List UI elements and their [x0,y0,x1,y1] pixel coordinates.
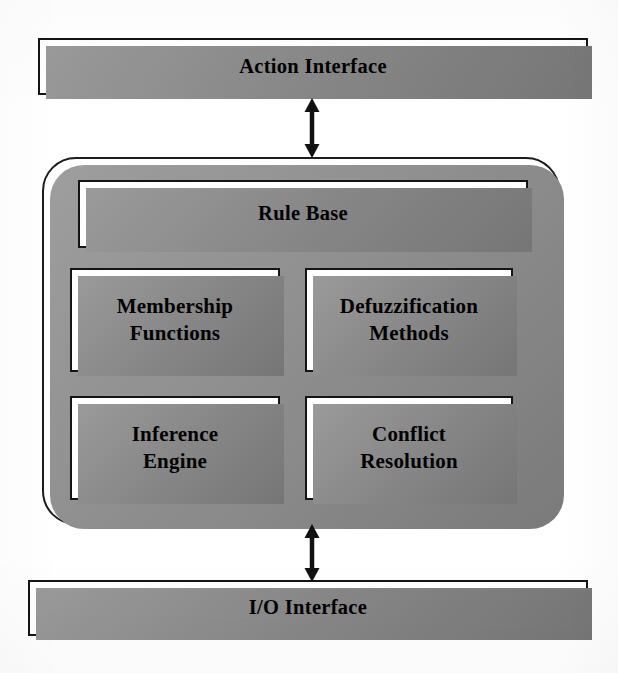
inference-engine-label-line2: Engine [143,449,207,473]
membership-functions-box: Membership Functions [70,268,280,372]
diagram-canvas: Action Interface Rule Base Membership Fu… [0,0,618,673]
defuzzification-methods-label-line2: Methods [369,321,449,345]
membership-functions-label-line2: Functions [130,321,221,345]
top-double-headed-arrow-icon [292,98,332,158]
rule-base-label: Rule Base [258,202,348,226]
action-interface-label: Action Interface [239,55,387,79]
defuzzification-methods-label-line1: Defuzzification [340,294,478,318]
inference-engine-box: Inference Engine [70,396,280,500]
defuzzification-methods-label: Defuzzification Methods [340,293,478,347]
io-interface-label: I/O Interface [249,596,367,620]
io-interface-box: I/O Interface [28,580,588,636]
rule-base-box: Rule Base [78,180,528,248]
action-interface-box: Action Interface [38,38,588,95]
inference-engine-label: Inference Engine [132,421,219,475]
membership-functions-label-line1: Membership [117,294,233,318]
bottom-double-headed-arrow-icon [292,524,332,582]
defuzzification-methods-box: Defuzzification Methods [305,268,513,372]
inference-engine-label-line1: Inference [132,422,219,446]
conflict-resolution-label-line2: Resolution [360,449,458,473]
membership-functions-label: Membership Functions [117,293,233,347]
conflict-resolution-box: Conflict Resolution [305,396,513,500]
conflict-resolution-label: Conflict Resolution [360,421,458,475]
conflict-resolution-label-line1: Conflict [372,422,446,446]
